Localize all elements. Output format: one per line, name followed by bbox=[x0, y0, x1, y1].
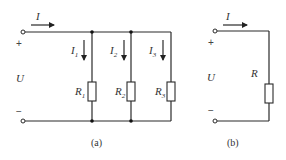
node-top-2 bbox=[129, 30, 133, 34]
circuit-diagram: I + U − I1 R1 I2 R2 bbox=[0, 0, 286, 160]
node-bottom-1 bbox=[90, 119, 94, 123]
positive-terminal bbox=[21, 30, 25, 34]
negative-terminal bbox=[213, 119, 217, 123]
positive-terminal bbox=[213, 29, 217, 33]
branch-2: I2 R2 bbox=[109, 30, 135, 123]
node-bottom-2 bbox=[129, 119, 133, 123]
branch-1: I1 R1 bbox=[70, 30, 96, 123]
resistor-label: R1 bbox=[74, 85, 85, 100]
resistor-r bbox=[265, 84, 273, 103]
figure-b-equivalent-circuit: I + U − R (b) bbox=[207, 10, 273, 149]
resistor-r1 bbox=[88, 82, 96, 101]
resistor-r3 bbox=[167, 82, 175, 101]
total-current-label: I bbox=[225, 10, 231, 22]
branch-current-label: I3 bbox=[148, 44, 157, 59]
minus-sign: − bbox=[208, 105, 214, 116]
resistor-label: R3 bbox=[154, 85, 166, 100]
voltage-label: U bbox=[207, 71, 216, 83]
node-top-1 bbox=[90, 30, 94, 34]
voltage-label: U bbox=[16, 72, 25, 84]
resistor-label: R2 bbox=[114, 85, 126, 100]
caption-a: (a) bbox=[91, 137, 102, 149]
branch-current-label: I1 bbox=[70, 44, 78, 59]
minus-sign: − bbox=[16, 106, 22, 117]
branch-3: I3 R3 bbox=[148, 32, 175, 121]
plus-sign: + bbox=[208, 37, 214, 48]
figure-a-parallel-circuit: I + U − I1 R1 I2 R2 bbox=[16, 10, 175, 149]
resistor-r2 bbox=[127, 82, 135, 101]
plus-sign: + bbox=[16, 38, 22, 49]
resistor-label: R bbox=[250, 67, 258, 79]
total-current-label: I bbox=[35, 10, 41, 22]
negative-terminal bbox=[21, 119, 25, 123]
caption-b: (b) bbox=[227, 137, 239, 149]
branch-current-label: I2 bbox=[109, 44, 118, 59]
